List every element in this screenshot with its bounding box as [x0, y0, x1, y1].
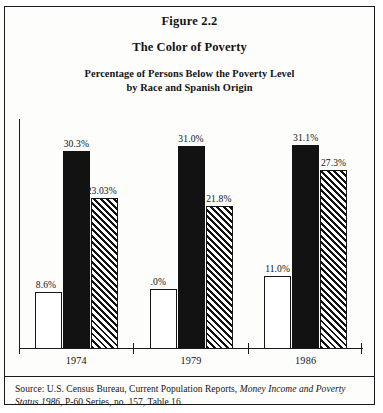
figure-subtitle-line2: by Race and Spanish Origin [126, 82, 252, 93]
bar-group-1979: .0% 31.0% 21.8% [134, 120, 249, 348]
bar-hatch-1979: 21.8% [206, 206, 233, 348]
bar-rect-black-1979 [178, 146, 205, 348]
bar-rect-black-1986 [292, 145, 319, 348]
bar-label-hatch-1974: 23.03% [87, 185, 117, 196]
bar-white-1979: .0% [150, 289, 177, 348]
bar-label-black-1979: 31.0% [178, 133, 203, 144]
bar-rect-hatch-1979 [206, 206, 233, 348]
x-axis-line [19, 348, 363, 349]
bar-rect-hatch-1974 [91, 198, 118, 348]
bar-rect-white-1986 [264, 276, 291, 348]
figure-subtitle: Percentage of Persons Below the Poverty … [5, 67, 374, 94]
bar-white-1986: 11.0% [264, 276, 291, 348]
x-tick-label-1986: 1986 [248, 355, 363, 371]
bar-rect-hatch-1986 [320, 170, 347, 348]
x-tick-label-1979: 1979 [134, 355, 249, 371]
bar-label-white-1979: .0% [151, 276, 167, 287]
bar-hatch-1986: 27.3% [320, 170, 347, 348]
figure-frame: Figure 2.2 The Color of Poverty Percenta… [4, 6, 375, 405]
figure-titles: Figure 2.2 The Color of Poverty Percenta… [5, 7, 374, 94]
bar-chart-plot: 8.6% 30.3% 23.03% .0% [19, 119, 363, 349]
source-note: Source: U.S. Census Bureau, Current Popu… [15, 383, 367, 410]
bar-label-white-1986: 11.0% [265, 263, 290, 274]
bar-hatch-1974: 23.03% [91, 198, 118, 348]
bar-black-1974: 30.3% [63, 151, 90, 348]
bar-label-hatch-1986: 27.3% [321, 157, 346, 168]
bar-label-black-1986: 31.1% [293, 132, 318, 143]
bar-label-white-1974: 8.6% [36, 279, 56, 290]
bar-rect-white-1974 [35, 292, 62, 348]
x-axis-tick-labels: 1974 1979 1986 [19, 355, 363, 371]
figure-title: The Color of Poverty [5, 40, 374, 55]
source-divider [5, 376, 374, 377]
figure-number: Figure 2.2 [5, 14, 374, 29]
bar-group-1974: 8.6% 30.3% 23.03% [19, 120, 134, 348]
bar-white-1974: 8.6% [35, 292, 62, 348]
source-suffix: , P-60 Series, no. 157, Table 16. [60, 397, 183, 407]
bar-label-black-1974: 30.3% [64, 138, 89, 149]
x-tick-label-1974: 1974 [19, 355, 134, 371]
bar-group-1986: 11.0% 31.1% 27.3% [248, 120, 363, 348]
bar-groups: 8.6% 30.3% 23.03% .0% [19, 120, 363, 348]
figure-subtitle-line1: Percentage of Persons Below the Poverty … [85, 68, 295, 79]
bar-label-hatch-1979: 21.8% [206, 193, 231, 204]
bar-black-1979: 31.0% [178, 146, 205, 348]
bar-rect-white-1979 [150, 289, 177, 348]
source-prefix: Source: U.S. Census Bureau, Current Popu… [15, 384, 240, 394]
bar-black-1986: 31.1% [292, 145, 319, 348]
bar-rect-black-1974 [63, 151, 90, 348]
